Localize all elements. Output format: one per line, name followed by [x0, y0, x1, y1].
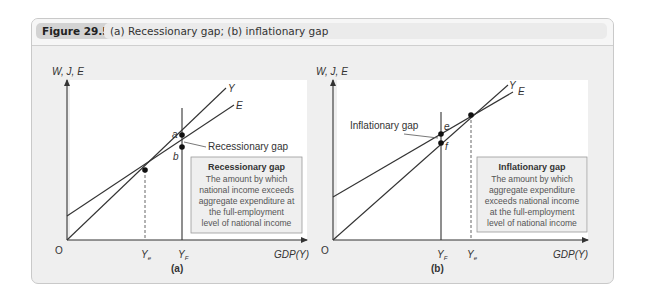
ye-label-b: Ye: [467, 249, 478, 261]
y-axis-label-a: W, J, E: [52, 66, 84, 77]
y-axis-label-b: W, J, E: [316, 66, 348, 77]
yf-label-b: YF: [437, 249, 448, 261]
point-e: [438, 131, 444, 137]
box-line-b-5: level of national income: [487, 218, 577, 228]
point-a-label: a: [172, 129, 178, 140]
point-e-label: e: [444, 121, 450, 132]
point-b: [179, 144, 185, 150]
panel-a: W, J, E GDP(Y) O Y E a b Recessionary ga…: [52, 66, 309, 274]
box-line-b-3: exceeds national income: [485, 196, 580, 206]
gap-callout-a: Recessionary gap: [208, 141, 288, 152]
panel-b: W, J, E GDP(Y) O Y E e f Inflationary ga…: [316, 66, 588, 274]
origin-label-a: O: [55, 245, 63, 256]
box-line-a-5: level of national income: [202, 218, 292, 228]
box-title-a: Recessionary gap: [208, 162, 286, 172]
x-axis-label-a: GDP(Y): [274, 249, 309, 260]
box-line-b-2: aggregate expenditure: [489, 185, 575, 195]
box-line-a-4: the full-employment: [209, 207, 285, 217]
box-line-b-4: at the full-employment: [490, 207, 575, 217]
panel-label-b: (b): [431, 263, 444, 274]
equilibrium-point-a: [142, 167, 148, 173]
box-line-b-1: The amount by which: [491, 174, 573, 184]
yf-label-a: YF: [178, 249, 189, 261]
box-line-a-1: The amount by which: [206, 174, 288, 184]
point-f: [438, 140, 444, 146]
ye-label-a: Ye: [141, 249, 152, 261]
gap-diagrams: W, J, E GDP(Y) O Y E a b Recessionary ga…: [0, 0, 645, 303]
line-e-label-b: E: [518, 86, 525, 97]
line-e-label-a: E: [236, 100, 243, 111]
x-axis-label-b: GDP(Y): [553, 249, 588, 260]
point-a: [179, 132, 185, 138]
box-line-a-2: national income exceeds: [199, 185, 294, 195]
equilibrium-point-b: [468, 112, 474, 118]
box-line-a-3: aggregate expenditure at: [199, 196, 295, 206]
box-title-b: Inflationary gap: [498, 162, 566, 172]
panel-label-a: (a): [171, 263, 183, 274]
gap-callout-b: Inflationary gap: [350, 120, 419, 131]
origin-label-b: O: [321, 245, 329, 256]
point-b-label: b: [173, 151, 179, 162]
